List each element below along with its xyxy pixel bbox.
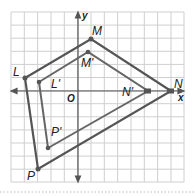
point-P-prime bbox=[46, 146, 51, 151]
y-axis-label: y bbox=[81, 10, 88, 21]
label-P-prime: P' bbox=[51, 125, 62, 139]
y-axis-up-arrow bbox=[76, 12, 81, 18]
x-axis-left-arrow bbox=[11, 89, 17, 94]
label-N: N bbox=[174, 77, 183, 91]
point-L bbox=[23, 76, 28, 81]
origin-label: O bbox=[67, 93, 75, 104]
point-P bbox=[36, 167, 41, 172]
label-M: M bbox=[92, 24, 102, 38]
label-M-prime: M' bbox=[81, 56, 94, 70]
label-P: P bbox=[27, 169, 35, 183]
point-N-prime bbox=[144, 89, 151, 94]
label-L: L bbox=[13, 65, 20, 79]
point-L-prime bbox=[37, 80, 42, 85]
coordinate-plane-figure: y x O L M N P L' M' N' P' bbox=[0, 0, 195, 196]
x-axis-label: x bbox=[177, 92, 184, 103]
labels: y x O L M N P L' M' N' P' bbox=[13, 10, 184, 183]
point-N bbox=[167, 89, 174, 94]
y-axis-down-arrow bbox=[76, 176, 81, 182]
label-N-prime: N' bbox=[122, 85, 134, 99]
label-L-prime: L' bbox=[51, 77, 61, 91]
point-M-prime bbox=[86, 50, 91, 55]
